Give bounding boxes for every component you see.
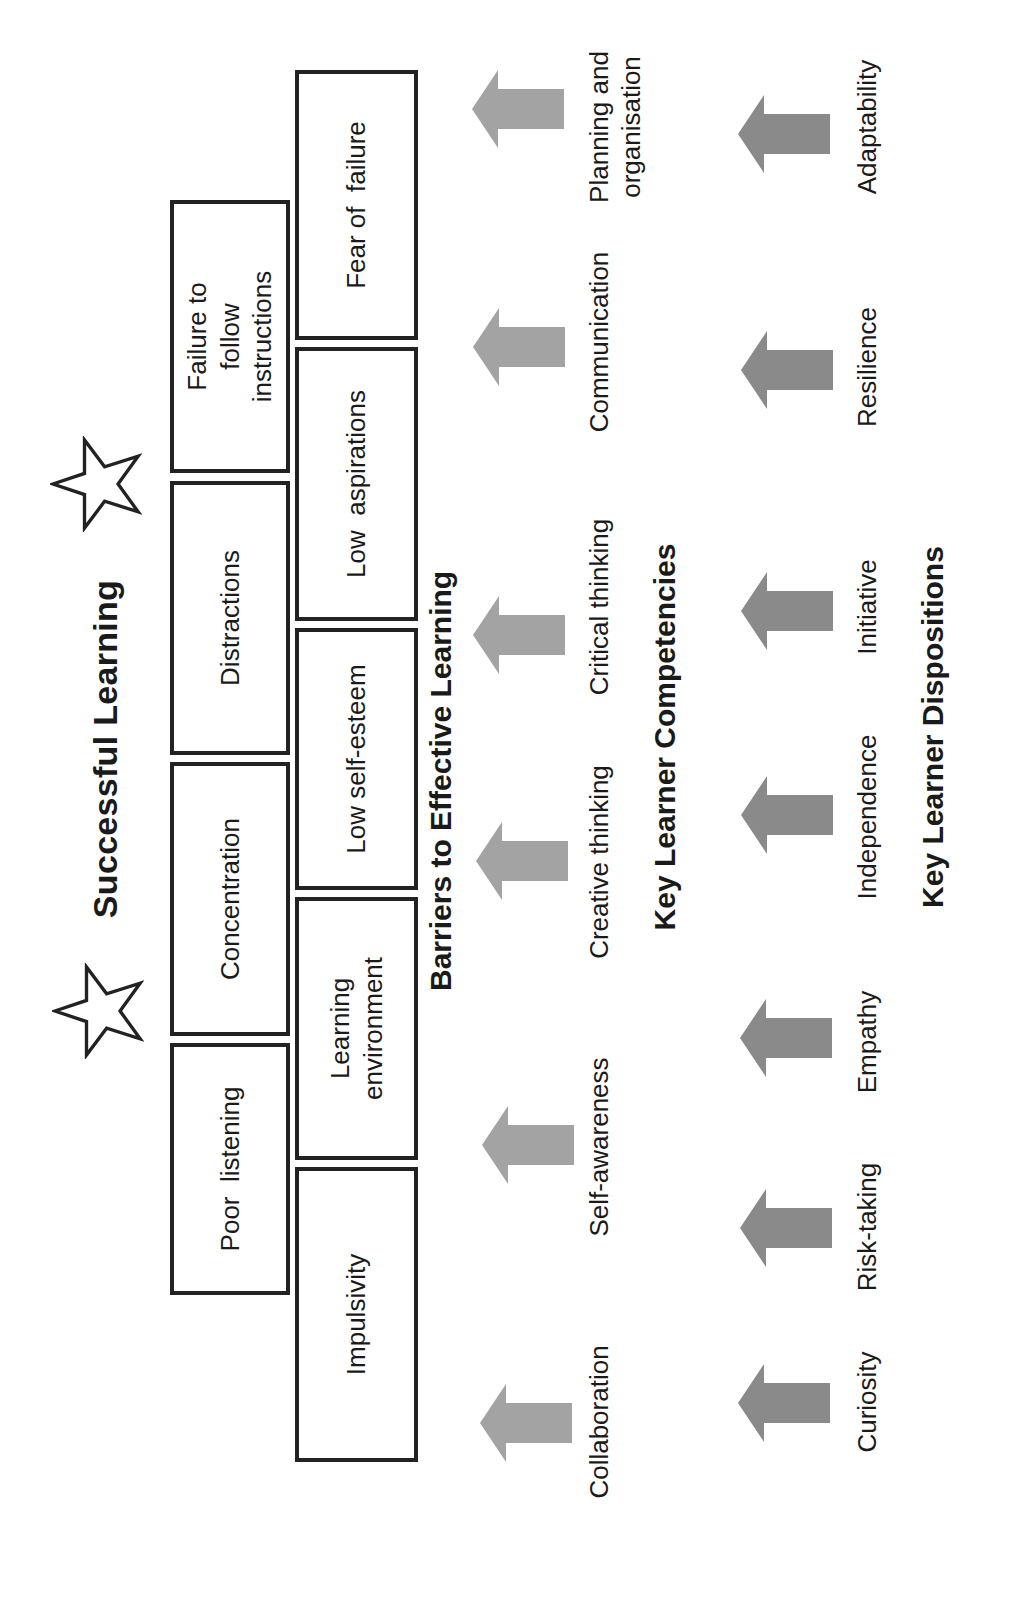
barrier-label: Concentration xyxy=(214,818,247,980)
barrier-box-low-aspirations: Low aspirations xyxy=(295,347,418,621)
disposition-label-independence: Independence xyxy=(852,717,884,917)
barrier-box-learning-environment: Learning environment xyxy=(295,897,418,1160)
competency-label-collaboration: Collaboration xyxy=(584,1327,616,1517)
up-arrow-icon xyxy=(740,1189,832,1267)
disposition-label-empathy: Empathy xyxy=(852,977,884,1107)
barrier-box-low-self-esteem: Low self-esteem xyxy=(295,628,418,890)
barrier-label: Low self-esteem xyxy=(340,664,373,853)
up-arrow-icon xyxy=(740,999,832,1077)
barrier-box-failure-to-follow-instructions: Failure to follow instructions xyxy=(170,200,290,473)
disposition-label-resilience: Resilience xyxy=(852,292,884,442)
disposition-label-adaptability: Adaptability xyxy=(852,42,884,212)
competency-label-creative-thinking: Creative thinking xyxy=(584,747,616,977)
up-arrow-icon xyxy=(741,776,833,854)
barrier-label: Fear of failure xyxy=(340,121,373,289)
competencies-heading: Key Learner Competencies xyxy=(648,527,682,947)
barrier-label: Failure to follow instructions xyxy=(181,254,279,419)
disposition-label-initiative: Initiative xyxy=(852,537,884,677)
up-arrow-icon xyxy=(738,1364,830,1442)
dispositions-heading: Key Learner Dispositions xyxy=(916,517,950,937)
star-left-icon xyxy=(52,963,144,1059)
competency-label-planning-and-organisation: Planning and organisation xyxy=(584,32,647,222)
up-arrow-icon xyxy=(482,1106,574,1184)
competency-label-communication: Communication xyxy=(584,232,616,452)
barrier-box-impulsivity: Impulsivity xyxy=(295,1167,418,1462)
up-arrow-icon xyxy=(473,596,565,674)
competency-label-self-awareness: Self-awareness xyxy=(584,1042,616,1252)
competency-label-critical-thinking: Critical thinking xyxy=(584,497,616,717)
up-arrow-icon xyxy=(476,822,568,900)
disposition-label-risk-taking: Risk-taking xyxy=(852,1147,884,1307)
star-right-icon xyxy=(50,436,142,532)
barrier-box-distractions: Distractions xyxy=(170,481,290,755)
barrier-label: Learning environment xyxy=(324,957,389,1100)
barrier-label: Distractions xyxy=(214,550,247,686)
up-arrow-icon xyxy=(741,331,833,409)
barrier-box-poor-listening: Poor listening xyxy=(170,1043,290,1295)
up-arrow-icon xyxy=(738,95,830,173)
barrier-box-concentration: Concentration xyxy=(170,762,290,1036)
barrier-label: Low aspirations xyxy=(340,390,373,578)
disposition-label-curiosity: Curiosity xyxy=(852,1337,884,1467)
diagram-canvas: Successful Learning Poor listening Conce… xyxy=(0,0,1023,1597)
up-arrow-icon xyxy=(473,308,565,386)
barrier-label: Impulsivity xyxy=(340,1254,373,1375)
barrier-label: Poor listening xyxy=(214,1087,247,1252)
up-arrow-icon xyxy=(472,70,564,148)
page-title: Successful Learning xyxy=(86,553,125,945)
barrier-box-fear-of-failure: Fear of failure xyxy=(295,70,418,340)
up-arrow-icon xyxy=(741,572,833,650)
barriers-heading: Barriers to Effective Learning xyxy=(424,611,458,991)
up-arrow-icon xyxy=(480,1384,572,1462)
